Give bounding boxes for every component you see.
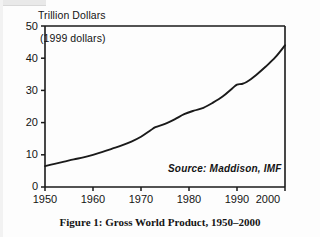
figure-container: Trillion Dollars (1999 dollars) Source: …	[0, 0, 320, 237]
y-tick-label-40: 40	[12, 53, 38, 64]
chart-subtitle-note: (1999 dollars)	[40, 32, 106, 44]
x-tick-label-1980: 1980	[169, 194, 209, 205]
y-tick-label-50: 50	[12, 21, 38, 32]
source-annotation: Source: Maddison, IMF	[168, 163, 282, 174]
figure-caption: Figure 1: Gross World Product, 1950–2000	[0, 216, 320, 228]
y-tick-label-30: 30	[12, 85, 38, 96]
y-tick-label-20: 20	[12, 117, 38, 128]
x-tick-label-1960: 1960	[73, 194, 113, 205]
gross-world-product-chart: Trillion Dollars (1999 dollars) Source: …	[0, 0, 320, 237]
y-tick-label-0: 0	[12, 181, 38, 192]
gwp-series-line	[45, 45, 285, 166]
x-tick-label-2000: 2000	[248, 194, 288, 205]
x-tick-label-1970: 1970	[121, 194, 161, 205]
y-axis-title: Trillion Dollars	[38, 9, 106, 21]
y-tick-label-10: 10	[12, 149, 38, 160]
x-tick-label-1950: 1950	[25, 194, 65, 205]
